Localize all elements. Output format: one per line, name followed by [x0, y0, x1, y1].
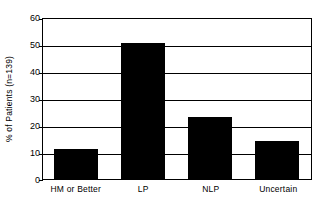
bar-chart-figure: % of Patients (n=139) 0 10 20 30 40 50 6… — [0, 0, 331, 203]
y-tick-label-10: 10 — [14, 149, 40, 158]
y-tick-label-20: 20 — [14, 122, 40, 131]
y-tick-label-50: 50 — [14, 41, 40, 50]
y-axis-tick-labels: 0 10 20 30 40 50 60 — [14, 0, 40, 203]
x-tick-label-nlp: NLP — [202, 184, 219, 194]
x-tick-label-lp: LP — [138, 184, 149, 194]
y-tick-label-40: 40 — [14, 68, 40, 77]
bar-uncertain — [255, 141, 299, 179]
bar-series — [43, 19, 311, 179]
plot-area — [42, 18, 312, 180]
bar-nlp — [188, 117, 232, 179]
x-axis-tick-labels: HM or Better LP NLP Uncertain — [42, 182, 312, 200]
plot-inner — [43, 19, 311, 179]
x-tick-label-uncertain: Uncertain — [259, 184, 297, 194]
bar-hm-or-better — [54, 149, 98, 179]
y-tick-label-30: 30 — [14, 95, 40, 104]
bar-lp — [121, 43, 165, 179]
y-axis-title: % of Patients (n=139) — [4, 56, 14, 142]
y-tick-label-0: 0 — [14, 176, 40, 185]
x-tick-label-hm-or-better: HM or Better — [50, 184, 101, 194]
y-tick-label-60: 60 — [14, 14, 40, 23]
tickmark-0 — [39, 180, 43, 181]
